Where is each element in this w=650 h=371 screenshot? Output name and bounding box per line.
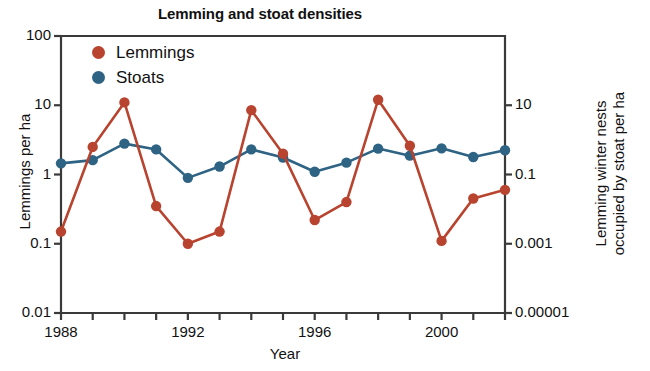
data-point-stoats bbox=[119, 138, 129, 148]
data-point-stoats bbox=[214, 161, 224, 171]
data-point-lemmings bbox=[436, 236, 446, 246]
data-point-lemmings bbox=[405, 141, 415, 151]
data-point-stoats bbox=[436, 143, 446, 153]
data-point-stoats bbox=[310, 167, 320, 177]
data-point-stoats bbox=[373, 143, 383, 153]
data-point-stoats bbox=[468, 152, 478, 162]
data-point-stoats bbox=[246, 144, 256, 154]
y-axis-right-tick-label: 10 bbox=[515, 95, 532, 112]
y-axis-left-tick-label: 1 bbox=[0, 165, 51, 182]
y-axis-right-tick-label: 0.1 bbox=[515, 165, 536, 182]
x-axis-tick-label: 1992 bbox=[148, 323, 228, 340]
data-point-lemmings bbox=[246, 105, 256, 115]
x-axis-tick-label: 2000 bbox=[402, 323, 482, 340]
y-axis-left-tick-label: 0.1 bbox=[0, 234, 51, 251]
data-point-stoats bbox=[341, 157, 351, 167]
y-axis-left-tick-label: 100 bbox=[0, 26, 51, 43]
x-axis-tick-label: 1996 bbox=[275, 323, 355, 340]
data-point-lemmings bbox=[119, 97, 129, 107]
series-line-lemmings bbox=[61, 100, 505, 244]
data-point-lemmings bbox=[500, 185, 510, 195]
axis-frame bbox=[61, 36, 505, 313]
data-point-lemmings bbox=[468, 193, 478, 203]
data-point-lemmings bbox=[56, 226, 66, 236]
data-point-stoats bbox=[151, 144, 161, 154]
y-axis-left-tick-label: 0.01 bbox=[0, 303, 51, 320]
data-point-lemmings bbox=[341, 197, 351, 207]
y-axis-right-tick-label: 0.00001 bbox=[515, 303, 569, 320]
y-axis-left-tick-label: 10 bbox=[0, 95, 51, 112]
data-point-lemmings bbox=[151, 201, 161, 211]
data-point-lemmings bbox=[214, 226, 224, 236]
data-point-lemmings bbox=[278, 148, 288, 158]
data-point-stoats bbox=[56, 158, 66, 168]
chart-figure: Lemming and stoat densities Lemmings per… bbox=[0, 0, 650, 371]
data-point-stoats bbox=[500, 145, 510, 155]
x-axis-tick-label: 1988 bbox=[21, 323, 101, 340]
data-point-lemmings bbox=[310, 215, 320, 225]
data-point-lemmings bbox=[373, 95, 383, 105]
y-axis-right-tick-label: 0.001 bbox=[515, 234, 553, 251]
data-point-lemmings bbox=[88, 142, 98, 152]
data-point-lemmings bbox=[183, 239, 193, 249]
data-point-stoats bbox=[183, 173, 193, 183]
